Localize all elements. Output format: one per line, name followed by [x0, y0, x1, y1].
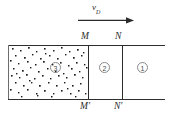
arrow-right-icon: [78, 17, 134, 24]
physics-diagram: vD: [0, 0, 173, 118]
point-label-n-prime: N′: [114, 101, 122, 112]
point-label-m-prime: M′: [80, 101, 90, 112]
point-label-n: N: [115, 31, 121, 42]
divider-line-mm-prime: [88, 45, 89, 99]
speckle-pattern-icon: [9, 46, 88, 98]
conductor-bottom-rail: [8, 99, 165, 100]
velocity-label: vD: [92, 2, 100, 16]
divider-line-nn-prime: [122, 45, 123, 99]
region-marker-2: 2: [99, 62, 110, 73]
point-label-m: M: [81, 31, 89, 42]
region-marker-1: 1: [137, 62, 148, 73]
region-marker-3: 3: [50, 62, 61, 73]
velocity-subscript: D: [96, 9, 100, 15]
velocity-arrow-group: vD: [78, 2, 136, 24]
charge-carrier-speckle-region: [9, 46, 88, 98]
